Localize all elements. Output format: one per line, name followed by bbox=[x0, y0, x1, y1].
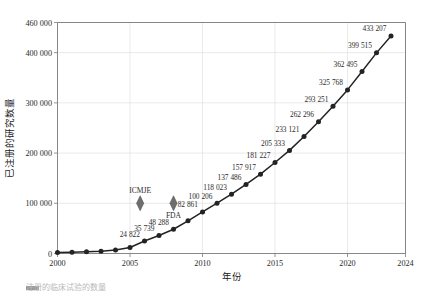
data-point bbox=[70, 250, 75, 255]
data-point-label: 118 023 bbox=[203, 183, 227, 192]
x-tick-label: 2005 bbox=[122, 259, 138, 268]
figure-caption: 注册的临床试验的数量 bbox=[26, 281, 106, 292]
data-point bbox=[142, 239, 147, 244]
data-point bbox=[229, 192, 234, 197]
data-point-label: 399 515 bbox=[348, 41, 372, 50]
registered-studies-line-chart: 0100 000200 000300 000400 000460 000 200… bbox=[0, 0, 427, 294]
figure-caption-strip: 注册的临床试验的数量 bbox=[0, 281, 427, 294]
data-point-label: 325 768 bbox=[319, 78, 343, 87]
y-axis-title: 已注册的研究数量 bbox=[4, 98, 15, 178]
data-point bbox=[345, 87, 350, 92]
data-point-label: 100 206 bbox=[188, 192, 212, 201]
data-point-label: 181 227 bbox=[246, 151, 270, 160]
y-tick-label: 400 000 bbox=[25, 49, 52, 58]
data-point bbox=[389, 33, 394, 38]
data-point-label: 362 495 bbox=[333, 60, 357, 69]
data-point bbox=[258, 172, 263, 177]
y-tick-label: 100 000 bbox=[25, 199, 52, 208]
y-tick-label: 460 000 bbox=[25, 19, 52, 28]
data-point-labels: 24 82235 73948 28882 861100 206118 02313… bbox=[120, 24, 387, 238]
data-point bbox=[99, 249, 104, 254]
data-point bbox=[186, 218, 191, 223]
x-tick-label: 2010 bbox=[194, 259, 210, 268]
data-point bbox=[84, 249, 89, 254]
data-point-label: 293 251 bbox=[304, 95, 328, 104]
data-point bbox=[171, 227, 176, 232]
data-point bbox=[157, 233, 162, 238]
data-point-label: 157 917 bbox=[232, 163, 256, 172]
y-axis-ticks: 0100 000200 000300 000400 000460 000 bbox=[25, 19, 57, 259]
data-point bbox=[113, 247, 118, 252]
annotation-label: ICMJE bbox=[129, 186, 151, 195]
annotation-diamond-icon bbox=[137, 196, 144, 211]
data-point-label: 233 121 bbox=[275, 125, 299, 134]
chart-figure: 0100 000200 000300 000400 000460 000 200… bbox=[0, 0, 427, 294]
x-axis-ticks: 200020052010201520202024 bbox=[49, 254, 413, 268]
data-point-label: 262 296 bbox=[290, 110, 314, 119]
x-tick-label: 2000 bbox=[49, 259, 65, 268]
x-tick-label: 2024 bbox=[397, 259, 413, 268]
data-point-label: 82 861 bbox=[178, 200, 199, 209]
annotation-diamond-icon bbox=[170, 196, 177, 211]
data-point bbox=[128, 245, 133, 250]
data-point bbox=[273, 160, 278, 165]
data-point bbox=[215, 201, 220, 206]
data-point bbox=[244, 182, 249, 187]
data-point bbox=[302, 134, 307, 139]
data-point bbox=[360, 69, 365, 74]
x-axis-title: 年份 bbox=[222, 271, 242, 282]
y-tick-label: 300 000 bbox=[25, 99, 52, 108]
y-tick-label: 200 000 bbox=[25, 149, 52, 158]
data-point-label: 137 486 bbox=[217, 173, 241, 182]
axis-lines bbox=[58, 23, 406, 254]
data-point bbox=[374, 50, 379, 55]
data-point bbox=[331, 104, 336, 109]
data-point-label: 433 207 bbox=[362, 24, 386, 33]
gridlines bbox=[58, 23, 406, 254]
data-point bbox=[287, 148, 292, 153]
x-tick-label: 2015 bbox=[267, 259, 283, 268]
data-point bbox=[316, 119, 321, 124]
annotation-label: FDA bbox=[166, 211, 182, 220]
y-tick-label: 0 bbox=[48, 250, 52, 259]
x-tick-label: 2020 bbox=[339, 259, 355, 268]
data-point bbox=[55, 250, 60, 255]
data-point-label: 205 333 bbox=[261, 139, 285, 148]
data-point bbox=[200, 209, 205, 214]
